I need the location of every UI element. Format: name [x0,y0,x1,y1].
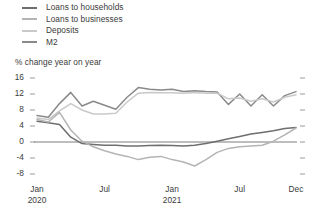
y-tick-label: 0 [4,136,24,146]
y-tick-label: 12 [4,88,24,98]
y-tick-label: 8 [4,104,24,114]
y-tick-label: 16 [4,72,24,82]
x-tick-month: Jan [165,184,179,194]
x-tick-label: Jan2021 [163,184,182,205]
x-tick-year: 2020 [28,195,47,206]
chart-svg [0,0,319,218]
x-tick-label: Jan2020 [28,184,47,205]
x-tick-label: Jul [99,184,110,195]
y-tick-marks-left [30,78,35,174]
x-tick-label: Jul [234,184,245,195]
chart-plot-area: 1612840-4-8 Jan2020JulJan2021JulDec [0,0,319,218]
y-tick-label: 4 [4,120,24,130]
x-tick-month: Jan [30,184,44,194]
x-tick-label: Dec [289,184,304,195]
series-line-deposits [37,92,296,119]
x-tick-month: Dec [289,184,304,194]
x-tick-year: 2021 [163,195,182,206]
y-tick-label: -4 [4,152,24,162]
series-line-loans-to-businesses [37,112,296,166]
series-line-m2 [37,88,296,118]
x-tick-month: Jul [99,184,110,194]
x-tick-month: Jul [234,184,245,194]
y-tick-label: -8 [4,168,24,178]
y-tick-marks-right [300,78,305,174]
series-lines [37,88,296,166]
